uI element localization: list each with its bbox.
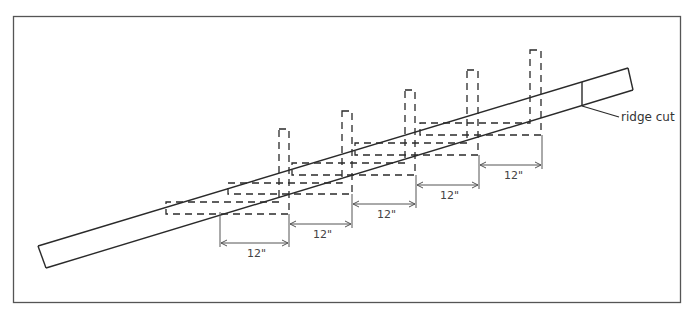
ridge-cut-label: ridge cut xyxy=(621,110,675,124)
dimension-label-2: 12" xyxy=(313,228,332,241)
diagram-frame xyxy=(14,17,681,303)
rafter-layout-diagram: ridge cut 12" 12" xyxy=(0,0,693,315)
rafter-tail-end xyxy=(38,246,46,268)
framing-square-5 xyxy=(420,50,541,135)
ridge-cut-leader xyxy=(582,106,619,117)
dimension-label-1: 12" xyxy=(247,247,266,260)
dimension-label-3: 12" xyxy=(377,208,396,221)
framing-squares xyxy=(166,50,541,214)
rafter-bottom-edge xyxy=(46,90,633,268)
dimension-label-4: 12" xyxy=(440,189,459,202)
rafter-top-edge xyxy=(38,68,628,246)
dimension-label-5: 12" xyxy=(504,169,523,182)
rafter-top-end xyxy=(628,68,633,90)
rafter-board xyxy=(38,68,633,268)
dimension-lines xyxy=(220,135,542,247)
